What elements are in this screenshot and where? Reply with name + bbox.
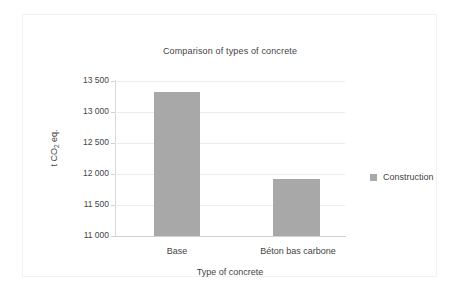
y-axis-tick-label: 13 500 (67, 76, 109, 85)
gridline (115, 143, 345, 144)
y-axis-title-prefix: t CO (49, 148, 59, 167)
chart-frame: Comparison of types of concrete t CO2 eq… (22, 14, 437, 277)
gridline (115, 174, 345, 175)
x-axis-tick-label-beton-bas-carbone: Béton bas carbone (236, 246, 360, 256)
plot-area (115, 81, 345, 236)
legend-swatch-construction (370, 174, 377, 181)
gridline (115, 112, 345, 113)
legend-label-construction: Construction (383, 172, 434, 182)
y-axis-tick-label: 11 500 (67, 200, 109, 209)
x-axis-tick-label-base: Base (130, 246, 224, 256)
y-axis-title-suffix: eq. (49, 129, 59, 144)
chart-title: Comparison of types of concrete (115, 46, 345, 56)
y-axis-tick-labels: 13 500 13 000 12 500 12 000 11 500 11 00… (63, 15, 109, 291)
legend: Construction (370, 172, 434, 182)
y-axis-title: t CO2 eq. (49, 108, 59, 188)
bar-beton-bas-carbone[interactable] (273, 179, 320, 236)
x-axis-line (115, 236, 346, 237)
y-axis-tick-label: 12 500 (67, 138, 109, 147)
y-axis-tick-label: 11 000 (67, 231, 109, 240)
x-axis-title: Type of concrete (115, 267, 345, 277)
bar-base[interactable] (154, 92, 200, 236)
y-axis-tick-label: 12 000 (67, 169, 109, 178)
y-axis-title-subscript: 2 (53, 144, 60, 148)
gridline (115, 81, 345, 82)
y-axis-tick-label: 13 000 (67, 107, 109, 116)
